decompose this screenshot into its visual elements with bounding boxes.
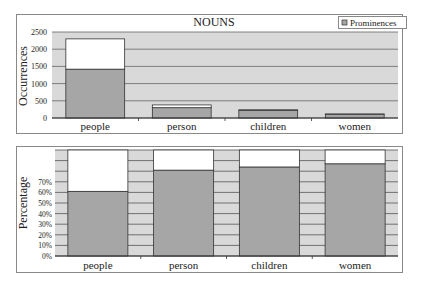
- bottom-y-axis-label: Percentage: [16, 177, 30, 230]
- top-bar-person-remainder: [152, 105, 211, 108]
- bottom-bar-children-remainder: [239, 150, 299, 167]
- bottom-y-tick-label: 0%: [42, 252, 52, 261]
- top-y-tick-label: 1500: [31, 62, 47, 71]
- bottom-y-ticks: 0%10%20%30%40%50%60%70%: [38, 178, 52, 261]
- top-x-tick-label: women: [339, 120, 372, 132]
- bottom-y-tick-label: 70%: [38, 178, 52, 187]
- top-y-tick-label: 2000: [31, 45, 47, 54]
- top-x-tick-label: person: [167, 120, 197, 132]
- bottom-y-tick-label: 60%: [38, 188, 52, 197]
- bottom-bar-person-prominences: [154, 170, 214, 256]
- top-y-axis-label: Occurrences: [16, 46, 30, 106]
- top-x-tick-label: children: [250, 120, 287, 132]
- top-plot-area: [52, 32, 398, 121]
- top-chart-title: NOUNS: [193, 15, 234, 29]
- bottom-bar-women-remainder: [325, 150, 385, 164]
- legend: Prominences: [339, 17, 407, 29]
- bottom-bar-children-prominences: [239, 167, 299, 256]
- bottom-x-tick-label: person: [169, 259, 199, 271]
- top-bar-people-prominences: [66, 69, 125, 118]
- top-y-tick-label: 500: [35, 97, 47, 106]
- legend-swatch: [342, 20, 347, 25]
- bottom-y-tick-label: 10%: [38, 241, 52, 250]
- top-bar-children-remainder: [239, 110, 298, 111]
- chart-canvas: NOUNS Prominences Occurrences 0500100015…: [0, 0, 432, 287]
- top-bar-person-prominences: [152, 108, 211, 118]
- top-y-tick-label: 2500: [31, 28, 47, 37]
- top-bar-women-remainder: [325, 114, 384, 115]
- bottom-y-tick-label: 40%: [38, 210, 52, 219]
- bottom-x-tick-label: people: [83, 259, 112, 271]
- top-y-tick-label: 1000: [31, 80, 47, 89]
- bottom-bar-women-prominences: [325, 164, 385, 256]
- bottom-bar-people-prominences: [68, 191, 128, 256]
- bottom-bar-people-remainder: [68, 150, 128, 191]
- top-bar-women-prominences: [325, 115, 384, 118]
- bottom-plot-area: [55, 150, 398, 259]
- bottom-x-tick-label: women: [339, 259, 372, 271]
- top-y-tick-label: 0: [43, 114, 47, 123]
- bottom-y-tick-label: 20%: [38, 231, 52, 240]
- legend-label: Prominences: [350, 18, 397, 28]
- top-x-tick-label: people: [81, 120, 110, 132]
- bottom-x-tick-label: children: [251, 259, 288, 271]
- top-bar-children-prominences: [239, 110, 298, 118]
- bottom-y-tick-label: 50%: [38, 199, 52, 208]
- top-bar-people-remainder: [66, 39, 125, 69]
- bottom-bar-person-remainder: [154, 150, 214, 170]
- bottom-y-tick-label: 30%: [38, 220, 52, 229]
